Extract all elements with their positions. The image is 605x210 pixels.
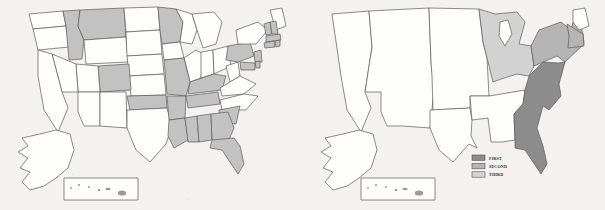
state-louisiana: [168, 118, 188, 148]
state-florida: [210, 138, 244, 174]
state-alabama: [197, 114, 212, 142]
state-new-mexico: [100, 92, 127, 128]
region-west-north-central: [429, 8, 489, 110]
right-map-regions: [321, 8, 589, 200]
state-nebraska: [127, 54, 164, 76]
state-wyoming: [84, 37, 128, 64]
region-mountain: [365, 8, 434, 128]
state-pennsylvania: [226, 42, 254, 62]
legend-swatch-second: [472, 163, 485, 168]
state-arizona: [78, 92, 100, 126]
state-oregon: [33, 26, 69, 50]
left-map-panel: [0, 0, 302, 210]
legend-label-second: SECOND: [489, 164, 507, 169]
state-texas: [127, 108, 172, 162]
state-arkansas: [167, 96, 186, 120]
figure-container: FIRST SECOND THIRD: [0, 0, 605, 210]
state-indiana: [201, 50, 214, 78]
right-map-svg: FIRST SECOND THIRD: [303, 0, 605, 210]
state-oklahoma: [127, 95, 167, 110]
state-iowa: [162, 42, 184, 60]
legend-swatch-third: [472, 172, 485, 177]
region-west-south-central: [430, 108, 477, 162]
legend-label-first: FIRST: [489, 156, 502, 161]
state-colorado: [98, 64, 131, 92]
hawaii-inset-box: [64, 178, 138, 200]
state-new-york: [236, 22, 268, 44]
left-map-states: [18, 7, 286, 200]
state-south-dakota: [126, 30, 162, 56]
right-map-panel: FIRST SECOND THIRD: [303, 0, 605, 210]
hawaii-inset-box: [361, 178, 435, 200]
state-delaware: [255, 61, 260, 68]
state-rhode-island: [275, 40, 280, 47]
legend-label-third: THIRD: [489, 172, 503, 177]
state-montana: [78, 8, 126, 40]
state-new-jersey: [254, 50, 262, 62]
state-north-dakota: [124, 7, 160, 32]
legend-swatch-first: [472, 155, 485, 160]
left-map-svg: [0, 0, 302, 210]
region-south-atlantic: [514, 62, 565, 174]
rank-legend: FIRST SECOND THIRD: [472, 155, 507, 177]
state-tennessee: [186, 92, 220, 108]
state-connecticut: [264, 41, 275, 48]
state-utah: [76, 64, 100, 92]
region-pacific: [332, 11, 372, 132]
state-maryland: [240, 62, 255, 70]
state-kansas: [129, 74, 166, 96]
